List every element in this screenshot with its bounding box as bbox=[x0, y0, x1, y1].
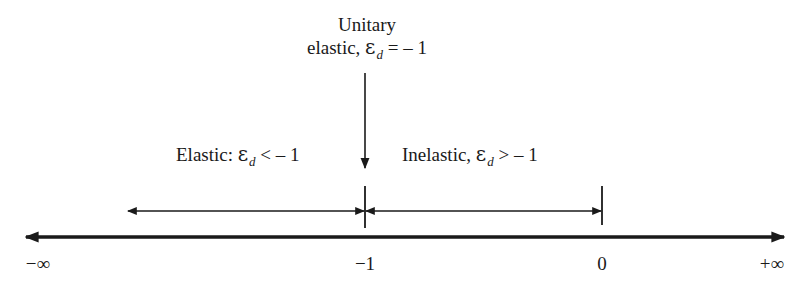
elastic-label: Elastic: εd < – 1 bbox=[176, 143, 300, 173]
tick-label-pos-infinity: +∞ bbox=[760, 253, 784, 275]
tick-label-zero: 0 bbox=[597, 253, 607, 275]
tick-label-minus-one: −1 bbox=[355, 253, 375, 275]
tick-label-neg-infinity: −∞ bbox=[26, 253, 50, 275]
epsilon-symbol: ε bbox=[238, 142, 248, 166]
unitary-label-line2: elastic, εd = – 1 bbox=[307, 36, 427, 66]
unitary-label: Unitary elastic, εd = – 1 bbox=[307, 14, 427, 66]
epsilon-symbol: ε bbox=[365, 35, 375, 59]
unitary-label-line1: Unitary bbox=[307, 14, 427, 36]
epsilon-symbol: ε bbox=[476, 142, 486, 166]
inelastic-label: Inelastic, εd > – 1 bbox=[402, 143, 538, 173]
